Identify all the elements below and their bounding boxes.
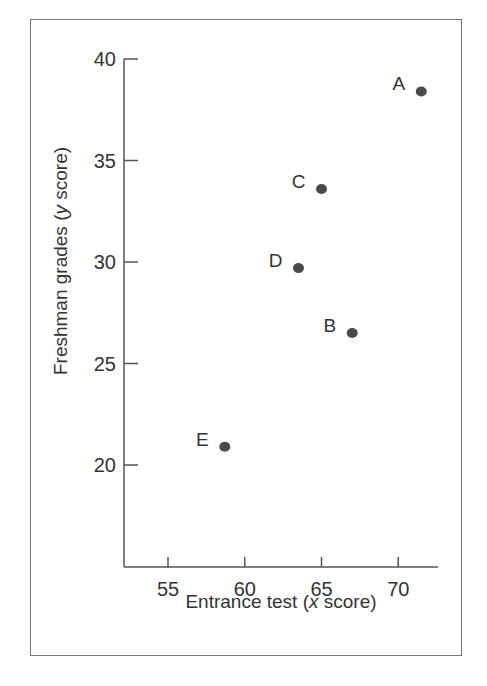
point-label-c: C [292,171,306,192]
y-tick-label: 25 [94,353,116,375]
y-tick-label: 30 [94,251,116,273]
y-tick-label: 20 [94,454,116,476]
point-label-d: D [269,250,283,271]
data-point-c [316,184,327,194]
point-label-e: E [196,429,209,450]
x-tick-label: 55 [157,578,179,600]
x-axis-title: Entrance test (x score) [185,591,376,612]
y-axis-title: Freshman grades (y score) [50,147,71,375]
point-label-a: A [393,73,406,94]
scatter-chart: 55606570 2025303540 ABCDE Entrance test … [0,0,487,686]
data-points: ABCDE [196,73,427,451]
data-point-b [347,328,358,338]
data-point-d [293,263,304,273]
axes [124,59,438,567]
y-tick-label: 35 [94,150,116,172]
y-tick-label: 40 [94,48,116,70]
data-point-e [219,442,230,452]
x-tick-label: 70 [387,578,409,600]
point-label-b: B [324,315,337,336]
data-point-a [416,86,427,96]
y-axis-ticks: 2025303540 [94,48,138,476]
